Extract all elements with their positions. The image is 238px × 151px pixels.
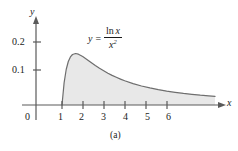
plot-canvas [0, 0, 238, 151]
equation-equals-sign: = [95, 33, 101, 44]
equation-fraction: lnx x2 [104, 26, 122, 50]
x-tick-label-2: 2 [79, 112, 84, 122]
y-axis-arrowhead [33, 16, 39, 24]
shaded-area-under-curve [62, 54, 215, 106]
natural-log-argument: x [115, 25, 119, 36]
x-tick-label-3: 3 [101, 112, 106, 122]
x-tick-label-1: 1 [58, 112, 63, 122]
natural-log-name: ln [106, 25, 114, 36]
x-tick-label-4: 4 [123, 112, 128, 122]
figure-container: y x 0.2 0.1 0 1 2 3 4 5 6 y = lnx x2 (a) [0, 0, 238, 151]
equation-annotation: y = lnx x2 [88, 26, 122, 50]
x-tick-label-6: 6 [166, 112, 171, 122]
equation-numerator: lnx [104, 26, 122, 37]
x-axis-name: x [227, 98, 231, 108]
figure-caption: (a) [110, 131, 121, 141]
y-tick-label-0-1: 0.1 [12, 65, 25, 75]
x-tick-label-0: 0 [25, 112, 30, 122]
y-axis-name: y [30, 7, 34, 17]
denominator-exponent: 2 [114, 38, 117, 45]
y-tick-label-0-2: 0.2 [12, 37, 25, 47]
x-tick-label-5: 5 [145, 112, 150, 122]
equation-denominator: x2 [107, 38, 119, 50]
x-axis-arrowhead [218, 102, 226, 108]
equation-lhs: y [88, 33, 92, 44]
